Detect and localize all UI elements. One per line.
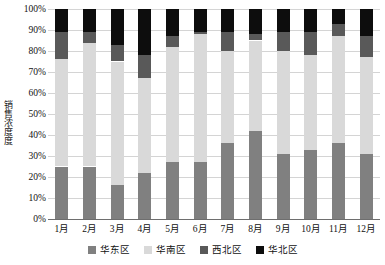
bar-segment[interactable] [221, 143, 234, 219]
bar-segment[interactable] [332, 36, 345, 143]
bar-segment[interactable] [360, 36, 373, 57]
bar-segment[interactable] [138, 78, 151, 173]
y-axis-tick-label: 30% [29, 151, 46, 161]
bar-slot [297, 9, 325, 219]
legend-item[interactable]: 华南区 [144, 245, 186, 255]
bar-segment[interactable] [277, 32, 290, 51]
bar-segment[interactable] [83, 167, 96, 220]
legend-item[interactable]: 西北区 [200, 245, 242, 255]
bar-stack[interactable] [83, 9, 96, 219]
bar-segment[interactable] [249, 34, 262, 40]
bar-slot [131, 9, 159, 219]
bar-segment[interactable] [138, 9, 151, 55]
bar-segment[interactable] [249, 9, 262, 34]
bar-segment[interactable] [332, 9, 345, 24]
bar-segment[interactable] [277, 51, 290, 154]
x-axis-tick-label: 10月 [297, 222, 325, 238]
bar-segment[interactable] [111, 62, 124, 186]
x-axis-tick-label: 8月 [242, 222, 270, 238]
bar-segment[interactable] [194, 34, 207, 162]
bar-stack[interactable] [166, 9, 179, 219]
bar-stack[interactable] [194, 9, 207, 219]
bar-segment[interactable] [111, 185, 124, 219]
bar-segment[interactable] [360, 9, 373, 36]
bar-segment[interactable] [332, 143, 345, 219]
x-axis-tick-label: 2月 [76, 222, 104, 238]
bar-segment[interactable] [138, 173, 151, 219]
legend-item[interactable]: 华东区 [88, 245, 130, 255]
bar-stack[interactable] [111, 9, 124, 219]
bar-slot [103, 9, 131, 219]
bar-segment[interactable] [221, 51, 234, 143]
y-axis-tick-label: 60% [29, 88, 46, 98]
bar-segment[interactable] [304, 150, 317, 219]
bar-stack[interactable] [360, 9, 373, 219]
y-axis-tick-label: 0% [33, 214, 46, 224]
bar-segment[interactable] [83, 43, 96, 167]
y-axis-tick-label: 70% [29, 67, 46, 77]
bar-slot [214, 9, 242, 219]
y-axis-tick-label: 50% [29, 109, 46, 119]
bars-layer [48, 9, 380, 219]
bar-segment[interactable] [304, 32, 317, 55]
bar-segment[interactable] [111, 9, 124, 45]
bar-segment[interactable] [194, 9, 207, 32]
y-axis-title: 销售浓度度 [1, 72, 15, 172]
bar-segment[interactable] [55, 9, 68, 32]
bar-slot [159, 9, 187, 219]
bar-slot [48, 9, 76, 219]
bar-segment[interactable] [55, 167, 68, 220]
bar-segment[interactable] [304, 9, 317, 32]
bar-segment[interactable] [166, 47, 179, 163]
legend-swatch-icon [144, 246, 152, 254]
bar-slot [352, 9, 380, 219]
legend-swatch-icon [200, 246, 208, 254]
x-axis-tick-label: 6月 [186, 222, 214, 238]
bar-segment[interactable] [194, 32, 207, 34]
bar-segment[interactable] [277, 154, 290, 219]
legend-label: 西北区 [212, 245, 242, 255]
bar-stack[interactable] [304, 9, 317, 219]
bar-segment[interactable] [277, 9, 290, 32]
bar-segment[interactable] [83, 32, 96, 43]
bar-segment[interactable] [360, 154, 373, 219]
bar-segment[interactable] [194, 162, 207, 219]
bar-segment[interactable] [304, 55, 317, 150]
bar-segment[interactable] [111, 45, 124, 62]
bar-stack[interactable] [249, 9, 262, 219]
stacked-bar-chart: 销售浓度度 0%10%20%30%40%50%60%70%80%90%100% … [0, 0, 385, 265]
bar-segment[interactable] [166, 162, 179, 219]
bar-segment[interactable] [166, 9, 179, 36]
x-axis-tick-label: 9月 [269, 222, 297, 238]
bar-slot [242, 9, 270, 219]
x-axis-tick-label: 11月 [325, 222, 353, 238]
legend-label: 华南区 [156, 245, 186, 255]
bar-segment[interactable] [221, 9, 234, 32]
bar-segment[interactable] [360, 57, 373, 154]
x-axis-line [48, 219, 380, 220]
legend-item[interactable]: 华北区 [256, 245, 298, 255]
y-axis-tick-label: 40% [29, 130, 46, 140]
bar-segment[interactable] [332, 24, 345, 37]
bar-segment[interactable] [138, 55, 151, 78]
legend-label: 华东区 [100, 245, 130, 255]
bar-stack[interactable] [332, 9, 345, 219]
bar-stack[interactable] [55, 9, 68, 219]
bar-segment[interactable] [83, 9, 96, 32]
bar-segment[interactable] [55, 59, 68, 166]
legend-swatch-icon [256, 246, 264, 254]
bar-segment[interactable] [249, 41, 262, 131]
x-axis-tick-label: 1月 [48, 222, 76, 238]
bar-segment[interactable] [221, 32, 234, 51]
bar-segment[interactable] [249, 131, 262, 219]
x-axis-tick-label: 5月 [159, 222, 187, 238]
bar-stack[interactable] [221, 9, 234, 219]
y-axis-tick-label: 100% [24, 4, 46, 14]
x-axis-tick-labels: 1月2月3月4月5月6月7月8月9月10月11月12月 [48, 222, 380, 238]
y-axis-tick-label: 10% [29, 193, 46, 203]
bar-segment[interactable] [166, 36, 179, 47]
bar-stack[interactable] [138, 9, 151, 219]
bar-segment[interactable] [55, 32, 68, 59]
x-axis-tick-label: 4月 [131, 222, 159, 238]
bar-stack[interactable] [277, 9, 290, 219]
